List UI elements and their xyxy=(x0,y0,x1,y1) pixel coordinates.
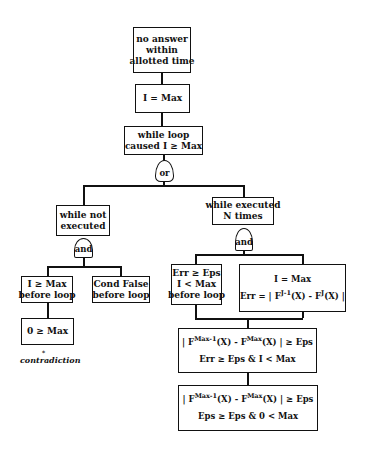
node-text: I = Max xyxy=(143,93,182,104)
connector-or-branch xyxy=(83,185,244,187)
gate-label: and xyxy=(235,237,253,247)
formula-part: (X) | xyxy=(324,291,345,301)
connector-and-left-down xyxy=(83,257,85,266)
connector-to-cond-false xyxy=(120,266,122,276)
formula-part: | F xyxy=(182,337,194,347)
connector-and-left-branch xyxy=(47,266,121,268)
node-text: while executed xyxy=(206,200,281,211)
connector-merge xyxy=(195,318,303,320)
node-text: before loop xyxy=(92,290,149,301)
formula-sup: Max xyxy=(247,392,262,400)
and-gate-right: and xyxy=(235,228,253,251)
formula-part: (X) | ≥ Eps xyxy=(262,337,313,347)
node-text: no answer xyxy=(136,34,187,45)
formula-part: | F xyxy=(183,394,195,404)
node-text: I ≥ Max xyxy=(27,279,66,290)
connector-merge-down xyxy=(247,318,249,328)
node-formula: | FMax-1(X) - FMax(X) | ≥ Eps xyxy=(182,337,313,348)
node-fmax-err-condition: | FMax-1(X) - FMax(X) | ≥ Eps Err ≥ Eps … xyxy=(178,328,317,373)
connector-to-i-ge-max xyxy=(47,266,49,276)
connector-left-branch xyxy=(83,185,85,205)
node-text: while loop xyxy=(138,130,190,141)
node-err-ge-eps-before-loop: Err ≥ Eps I < Max before loop xyxy=(171,264,222,305)
connector-i-ge-to-zero xyxy=(47,303,49,318)
connector-and-right-branch xyxy=(195,254,303,256)
node-i-ge-max-before-loop: I ≥ Max before loop xyxy=(21,276,73,303)
formula-sup: Max-1 xyxy=(195,392,217,400)
gate-label: and xyxy=(75,244,93,254)
node-cond-false-before-loop: Cond False before loop xyxy=(92,276,150,303)
node-text: before loop xyxy=(18,290,75,301)
and-gate-left: and xyxy=(74,238,93,258)
formula-part: (X) - F xyxy=(217,337,247,347)
node-text: executed xyxy=(60,221,105,232)
node-text: I < Max xyxy=(177,279,216,290)
node-while-loop-caused: while loop caused I ≥ Max xyxy=(124,126,203,155)
connector-right-branch xyxy=(243,185,245,197)
node-text: Eps ≥ Eps & 0 < Max xyxy=(198,411,298,422)
node-text: N times xyxy=(223,211,262,222)
formula-sup: J-1 xyxy=(281,289,291,297)
or-gate: or xyxy=(155,160,174,182)
node-i-max-err: I = Max Err = | FJ-1(X) - FJ(X) | xyxy=(239,264,346,312)
node-text: within xyxy=(146,45,178,56)
connector-root-to-imax xyxy=(161,72,163,84)
node-text: I = Max xyxy=(274,274,311,285)
node-text: before loop xyxy=(168,290,225,301)
formula-sup: Max-1 xyxy=(194,335,216,343)
node-zero-ge-max: 0 ≥ Max xyxy=(21,318,74,345)
connector-imax-to-while xyxy=(161,113,163,126)
node-text: allotted time xyxy=(130,56,195,67)
node-formula: Err = | FJ-1(X) - FJ(X) | xyxy=(240,291,345,302)
gate-label: or xyxy=(159,168,169,178)
node-no-answer: no answer within allotted time xyxy=(133,27,191,73)
formula-part: (X) - F xyxy=(217,394,247,404)
node-text: while not xyxy=(60,210,107,221)
node-text: Err ≥ Eps xyxy=(172,268,220,279)
formula-part: (X) | ≥ Eps xyxy=(262,394,313,404)
connector-to-err-box xyxy=(195,254,197,264)
node-text: Err ≥ Eps & I < Max xyxy=(199,354,295,365)
contradiction-label: contradiction xyxy=(20,355,81,365)
formula-part: Err = | F xyxy=(240,291,281,301)
node-text: 0 ≥ Max xyxy=(27,326,68,337)
connector-to-imax-err xyxy=(302,254,304,264)
node-text: Cond False xyxy=(93,279,148,290)
node-while-not-executed: while not executed xyxy=(56,205,110,236)
connector-fmax1-to-fmax2 xyxy=(247,373,249,385)
node-fmax-eps-condition: | FMax-1(X) - FMax(X) | ≥ Eps Eps ≥ Eps … xyxy=(178,385,318,431)
node-text: caused I ≥ Max xyxy=(125,141,202,152)
connector-err-merge xyxy=(195,305,197,318)
formula-part: (X) - F xyxy=(291,291,321,301)
node-formula: | FMax-1(X) - FMax(X) | ≥ Eps xyxy=(183,394,314,405)
node-while-executed-n-times: while executed N times xyxy=(212,197,274,225)
node-i-equals-max: I = Max xyxy=(135,84,190,113)
formula-sup: Max xyxy=(247,335,262,343)
